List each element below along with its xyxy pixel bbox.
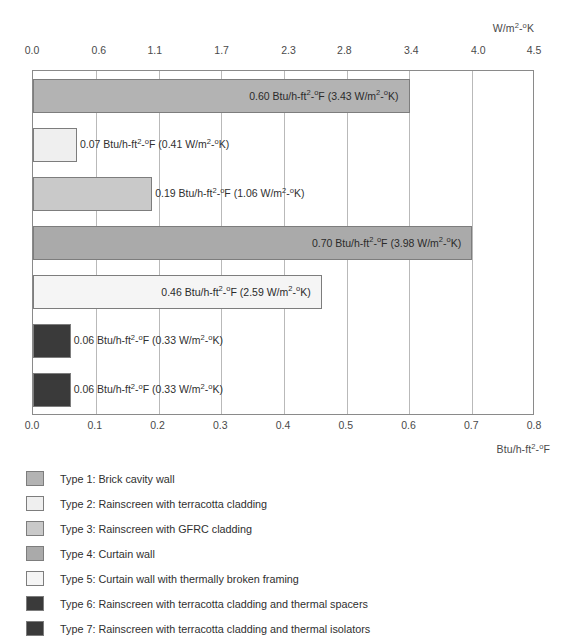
- legend-item[interactable]: Type 4: Curtain wall: [26, 541, 546, 566]
- legend-item[interactable]: Type 1: Brick cavity wall: [26, 466, 546, 491]
- bar-wrap: 0.06 Btu/h-ft2-oF (0.33 W/m2-oK): [33, 373, 533, 407]
- legend-label: Type 3: Rainscreen with GFRC cladding: [60, 523, 252, 535]
- top-axis-tick: 2.8: [337, 44, 352, 56]
- bar-row: 0.06 Btu/h-ft2-oF (0.33 W/m2-oK): [33, 373, 533, 407]
- bar[interactable]: 0.60 Btu/h-ft2-oF (3.43 W/m2-oK): [33, 79, 410, 113]
- top-axis-unit-label: W/m2-oK: [493, 22, 534, 34]
- bar-value-label: 0.06 Btu/h-ft2-oF (0.33 W/m2-oK): [69, 335, 228, 346]
- legend-swatch-icon: [26, 596, 44, 611]
- bottom-axis-tick: 0.6: [401, 419, 416, 431]
- bar[interactable]: [33, 373, 71, 407]
- bar-row: 0.19 Btu/h-ft2-oF (1.06 W/m2-oK): [33, 177, 533, 211]
- bottom-axis-tick: 0.7: [464, 419, 479, 431]
- legend-swatch-icon: [26, 471, 44, 486]
- top-axis-tick: 0.0: [25, 44, 40, 56]
- bar-value-label: 0.60 Btu/h-ft2-oF (3.43 W/m2-oK): [244, 90, 408, 101]
- bars-layer: 0.60 Btu/h-ft2-oF (3.43 W/m2-oK)0.07 Btu…: [33, 71, 533, 414]
- legend-item[interactable]: Type 7: Rainscreen with terracotta cladd…: [26, 616, 546, 637]
- bottom-axis-tick: 0.0: [25, 419, 40, 431]
- legend-label: Type 1: Brick cavity wall: [60, 473, 175, 485]
- legend: Type 1: Brick cavity wallType 2: Rainscr…: [26, 466, 546, 637]
- top-axis-tick: 3.4: [404, 44, 419, 56]
- bar-value-label: 0.07 Btu/h-ft2-oF (0.41 W/m2-oK): [75, 139, 234, 150]
- legend-label: Type 6: Rainscreen with terracotta cladd…: [60, 598, 368, 610]
- legend-item[interactable]: Type 5: Curtain wall with thermally brok…: [26, 566, 546, 591]
- u-value-comparison-chart: W/m2-oK 0.00.61.11.72.32.83.44.04.5 0.60…: [0, 0, 574, 637]
- legend-label: Type 5: Curtain wall with thermally brok…: [60, 573, 299, 585]
- bottom-axis-tick: 0.8: [527, 419, 542, 431]
- legend-label: Type 4: Curtain wall: [60, 548, 155, 560]
- bar-row: 0.46 Btu/h-ft2-oF (2.59 W/m2-oK): [33, 275, 533, 309]
- top-axis-tick: 4.5: [527, 44, 542, 56]
- bottom-axis-unit-label: Btu/h-ft2-oF: [497, 443, 550, 455]
- legend-swatch-icon: [26, 621, 44, 636]
- bar[interactable]: [33, 177, 152, 211]
- legend-swatch-icon: [26, 521, 44, 536]
- bar-value-label: 0.70 Btu/h-ft2-oF (3.98 W/m2-oK): [307, 237, 471, 248]
- bar-row: 0.06 Btu/h-ft2-oF (0.33 W/m2-oK): [33, 324, 533, 358]
- bar[interactable]: 0.70 Btu/h-ft2-oF (3.98 W/m2-oK): [33, 226, 472, 260]
- top-axis-tick: 2.3: [281, 44, 296, 56]
- legend-item[interactable]: Type 6: Rainscreen with terracotta cladd…: [26, 591, 546, 616]
- bar-value-label: 0.46 Btu/h-ft2-oF (2.59 W/m2-oK): [156, 286, 320, 297]
- legend-item[interactable]: Type 3: Rainscreen with GFRC cladding: [26, 516, 546, 541]
- bottom-axis-tick: 0.1: [87, 419, 102, 431]
- top-axis-tick: 1.7: [214, 44, 229, 56]
- top-axis-tick: 0.6: [92, 44, 107, 56]
- legend-swatch-icon: [26, 496, 44, 511]
- legend-item[interactable]: Type 2: Rainscreen with terracotta cladd…: [26, 491, 546, 516]
- bar-wrap: 0.07 Btu/h-ft2-oF (0.41 W/m2-oK): [33, 128, 533, 162]
- bar[interactable]: [33, 324, 71, 358]
- legend-swatch-icon: [26, 546, 44, 561]
- bar-row: 0.07 Btu/h-ft2-oF (0.41 W/m2-oK): [33, 128, 533, 162]
- bottom-axis: 0.00.10.20.30.40.50.60.70.8: [32, 419, 534, 433]
- legend-label: Type 2: Rainscreen with terracotta cladd…: [60, 498, 267, 510]
- bar-wrap: 0.60 Btu/h-ft2-oF (3.43 W/m2-oK): [33, 79, 533, 113]
- legend-label: Type 7: Rainscreen with terracotta cladd…: [60, 623, 370, 635]
- bar-value-label: 0.19 Btu/h-ft2-oF (1.06 W/m2-oK): [150, 188, 309, 199]
- bar[interactable]: 0.46 Btu/h-ft2-oF (2.59 W/m2-oK): [33, 275, 322, 309]
- bar-wrap: 0.06 Btu/h-ft2-oF (0.33 W/m2-oK): [33, 324, 533, 358]
- bottom-axis-tick: 0.2: [150, 419, 165, 431]
- bottom-axis-tick: 0.4: [276, 419, 291, 431]
- top-axis-tick: 4.0: [471, 44, 486, 56]
- bar-row: 0.70 Btu/h-ft2-oF (3.98 W/m2-oK): [33, 226, 533, 260]
- bar[interactable]: [33, 128, 77, 162]
- legend-swatch-icon: [26, 571, 44, 586]
- bar-value-label: 0.06 Btu/h-ft2-oF (0.33 W/m2-oK): [69, 384, 228, 395]
- bar-row: 0.60 Btu/h-ft2-oF (3.43 W/m2-oK): [33, 79, 533, 113]
- bottom-axis-tick: 0.5: [338, 419, 353, 431]
- top-axis-tick: 1.1: [147, 44, 162, 56]
- top-axis: 0.00.61.11.72.32.83.44.04.5: [32, 44, 534, 58]
- bar-wrap: 0.19 Btu/h-ft2-oF (1.06 W/m2-oK): [33, 177, 533, 211]
- bar-wrap: 0.70 Btu/h-ft2-oF (3.98 W/m2-oK): [33, 226, 533, 260]
- bar-wrap: 0.46 Btu/h-ft2-oF (2.59 W/m2-oK): [33, 275, 533, 309]
- bottom-axis-tick: 0.3: [213, 419, 228, 431]
